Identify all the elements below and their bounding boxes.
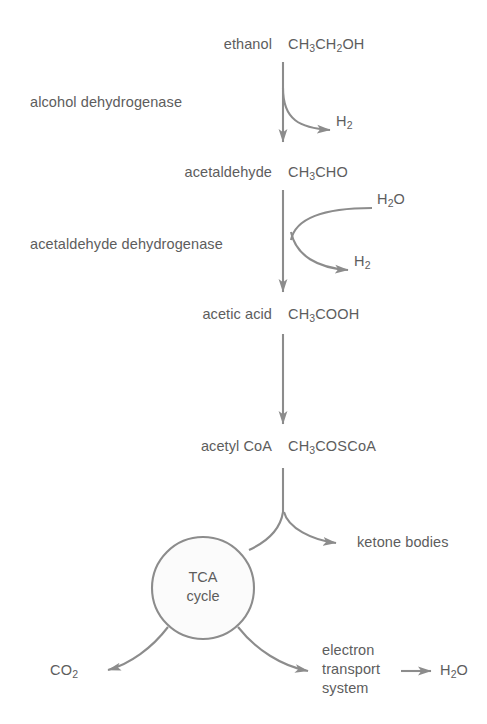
- side-substrate-water-step2: H2O: [377, 190, 405, 209]
- arrow-h2-release-step2: [291, 232, 348, 270]
- enzyme-label-acetaldehyde-dehydrogenase: acetaldehyde dehydrogenase: [30, 235, 223, 254]
- curve-to-tca-cycle: [249, 512, 283, 550]
- metabolite-formula-acetaldehyde: CH3CHO: [288, 163, 348, 182]
- tca-cycle-label-line1: TCA: [151, 568, 255, 587]
- ets-line1: electron: [322, 641, 380, 660]
- metabolite-name-acetyl-coa: acetyl CoA: [92, 437, 272, 456]
- metabolite-name-ethanol: ethanol: [92, 35, 272, 54]
- branch-label-ketone-bodies: ketone bodies: [357, 533, 449, 552]
- arrow-tca-to-co2: [108, 627, 168, 670]
- tca-cycle-label: TCA cycle: [151, 568, 255, 607]
- ethanol-metabolism-diagram: ethanol CH3CH2OH acetaldehyde CH3CHO ace…: [0, 0, 487, 724]
- metabolite-formula-acetyl-coa: CH3COSCoA: [288, 437, 376, 456]
- tca-cycle-label-line2: cycle: [151, 587, 255, 606]
- metabolite-formula-ethanol: CH3CH2OH: [288, 35, 365, 54]
- metabolite-name-acetic-acid: acetic acid: [92, 305, 272, 324]
- metabolite-name-acetaldehyde: acetaldehyde: [92, 163, 272, 182]
- curve-water-input-step2: [291, 208, 372, 240]
- branch-label-co2: CO2: [50, 661, 78, 680]
- ets-line3: system: [322, 679, 380, 698]
- arrow-tca-to-electron-transport: [238, 627, 308, 671]
- branch-label-water-product: H2O: [440, 661, 468, 680]
- side-product-h2-step2: H2: [354, 252, 371, 271]
- arrow-h2-release-step1: [283, 88, 330, 130]
- enzyme-label-alcohol-dehydrogenase: alcohol dehydrogenase: [30, 93, 182, 112]
- arrow-to-ketone-bodies: [284, 512, 336, 543]
- branch-label-electron-transport-system: electron transport system: [322, 641, 380, 698]
- metabolite-formula-acetic-acid: CH3COOH: [288, 305, 360, 324]
- side-product-h2-step1: H2: [336, 112, 353, 131]
- ets-line2: transport: [322, 660, 380, 679]
